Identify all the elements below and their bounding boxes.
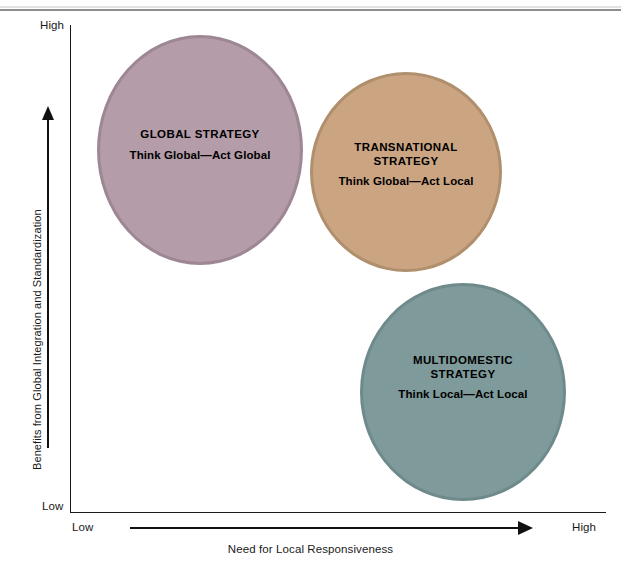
bubble-multidomestic-strategy-subtitle: Think Local—Act Local (398, 388, 527, 402)
strategy-matrix-figure: High Low Low High Benefits from Global I… (0, 0, 621, 570)
y-axis-line (70, 25, 71, 513)
bubble-transnational-strategy-subtitle: Think Global—Act Local (338, 175, 473, 189)
bubble-global-strategy-subtitle: Think Global—Act Global (130, 149, 271, 163)
bubble-transnational-strategy-title: TRANSNATIONAL STRATEGY (354, 141, 457, 168)
bubble-global-strategy: GLOBAL STRATEGY Think Global—Act Global (97, 35, 303, 265)
bubble-multidomestic-strategy-title: MULTIDOMESTIC STRATEGY (413, 354, 513, 381)
y-axis-title: Benefits from Global Integration and Sta… (31, 70, 43, 470)
x-axis-line (70, 512, 606, 513)
page-top-rule-soft (0, 6, 621, 8)
bubble-global-strategy-title: GLOBAL STRATEGY (140, 128, 259, 142)
x-axis-low-label: Low (72, 521, 93, 533)
y-axis-high-label: High (40, 19, 64, 31)
x-axis-arrow-shaft (130, 527, 522, 529)
x-axis-arrow-icon (518, 521, 533, 535)
y-axis-arrow-icon (42, 106, 54, 120)
bubble-multidomestic-strategy: MULTIDOMESTIC STRATEGY Think Local—Act L… (360, 283, 566, 501)
y-axis-low-label: Low (42, 500, 63, 512)
x-axis-high-label: High (572, 521, 596, 533)
page-top-rule (0, 9, 621, 11)
y-axis-arrow-shaft (47, 118, 49, 448)
bubble-transnational-strategy: TRANSNATIONAL STRATEGY Think Global—Act … (310, 72, 502, 272)
x-axis-title: Need for Local Responsiveness (0, 543, 621, 555)
